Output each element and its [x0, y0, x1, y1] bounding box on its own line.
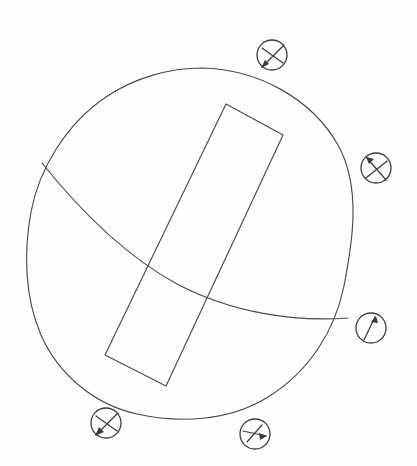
sphere-diagram-svg [0, 0, 417, 466]
lineation-right-lower-ring [356, 313, 386, 343]
diagram-canvas: Hand-drawn sphere with cutting plane and… [0, 0, 417, 466]
cutting-plane-group [42, 163, 348, 319]
shear-sense-bottom-left[interactable] [91, 408, 121, 438]
sphere-outline [27, 68, 353, 419]
tabular-body-outline [105, 104, 283, 386]
shear-sense-top[interactable] [257, 40, 287, 70]
lineation-right-lower[interactable] [356, 313, 386, 343]
tabular-body-group [105, 104, 283, 386]
sphere-outline-group [27, 68, 353, 419]
shear-sense-right-upper[interactable] [361, 153, 391, 183]
cutting-plane-arc [42, 163, 348, 319]
shear-sense-bottom-right[interactable] [240, 419, 270, 449]
